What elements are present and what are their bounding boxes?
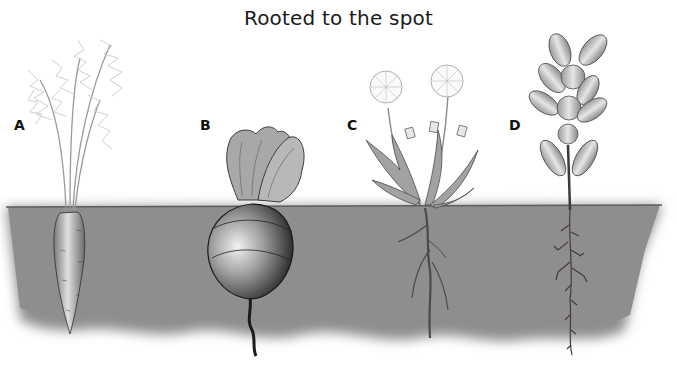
soil <box>6 205 662 341</box>
roots-illustration <box>0 0 677 372</box>
